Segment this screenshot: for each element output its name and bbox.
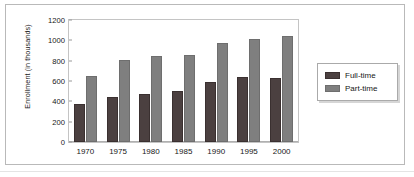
y-tick-label: 1200 xyxy=(48,16,69,25)
y-tick-mark xyxy=(69,101,72,102)
bar-part-time-1970 xyxy=(86,76,97,142)
bar-group xyxy=(74,20,97,142)
x-tick-label-1990: 1990 xyxy=(200,147,233,156)
y-tick-label: 800 xyxy=(52,56,69,65)
y-tick-mark xyxy=(69,60,72,61)
bar-full-time-1975 xyxy=(107,97,118,142)
y-tick-label: 400 xyxy=(52,97,69,106)
x-tick-label-1995: 1995 xyxy=(233,147,266,156)
bar-full-time-1995 xyxy=(237,77,248,142)
bar-full-time-1990 xyxy=(205,82,216,142)
bar-group xyxy=(172,20,195,142)
x-tick-label-1970: 1970 xyxy=(69,147,102,156)
y-tick-label: 0 xyxy=(61,138,69,147)
bar-group xyxy=(237,20,260,142)
chart-legend: Full-time Part-time xyxy=(317,63,398,101)
bar-group xyxy=(270,20,293,142)
y-axis-title: Enrollment (in thousands) xyxy=(23,15,32,119)
bar-part-time-1980 xyxy=(151,56,162,142)
x-tick-label-1980: 1980 xyxy=(134,147,167,156)
legend-item-full-time: Full-time xyxy=(325,69,391,82)
bar-full-time-1970 xyxy=(74,104,85,142)
y-tick-mark xyxy=(69,142,72,143)
x-tick-label-1975: 1975 xyxy=(102,147,135,156)
bar-part-time-1985 xyxy=(184,55,195,142)
bar-part-time-2000 xyxy=(282,36,293,142)
bar-group xyxy=(139,20,162,142)
bar-full-time-2000 xyxy=(270,78,281,142)
x-tick-label-1985: 1985 xyxy=(167,147,200,156)
bar-part-time-1990 xyxy=(217,43,228,142)
bar-group xyxy=(107,20,130,142)
y-tick-label: 600 xyxy=(52,77,69,86)
bar-part-time-1995 xyxy=(249,39,260,142)
chart-figure: Enrollment (in thousands) 02004006008001… xyxy=(5,4,405,165)
y-tick-mark xyxy=(69,81,72,82)
legend-item-part-time: Part-time xyxy=(325,82,391,95)
bar-full-time-1985 xyxy=(172,91,183,142)
legend-label-part-time: Part-time xyxy=(345,84,377,93)
y-tick-label: 1000 xyxy=(48,36,69,45)
legend-label-full-time: Full-time xyxy=(345,71,376,80)
legend-swatch-part-time xyxy=(325,85,340,92)
y-tick-mark xyxy=(69,20,72,21)
bar-group xyxy=(205,20,228,142)
bar-full-time-1980 xyxy=(139,94,150,142)
y-tick-mark xyxy=(69,121,72,122)
x-tick-label-2000: 2000 xyxy=(265,147,298,156)
y-tick-mark xyxy=(69,40,72,41)
legend-swatch-full-time xyxy=(325,72,340,79)
plot-area: 020040060080010001200 197019751980198519… xyxy=(68,19,299,143)
page-bottom-rule xyxy=(0,171,414,172)
bar-part-time-1975 xyxy=(119,60,130,142)
y-tick-label: 200 xyxy=(52,117,69,126)
